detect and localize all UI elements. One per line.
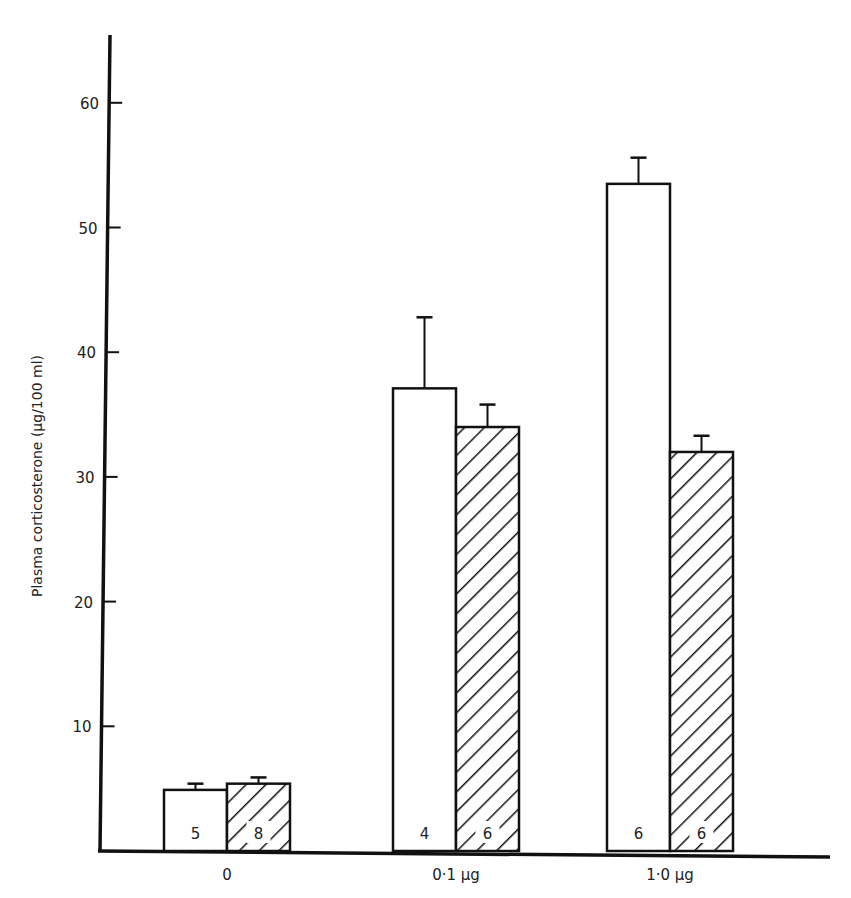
y-axis-line [100,35,110,851]
x-category-label: 0 [222,866,232,884]
bar-open [607,184,670,851]
sample-size-label: 6 [483,825,493,843]
sample-size-label: 4 [420,825,430,843]
bars [164,158,733,851]
bar-hatched [670,452,733,851]
y-axis-label: Plasma corticosterone (µg/100 ml) [29,355,45,597]
sample-size-label: 5 [191,825,201,843]
x-category-label: 1·0 µg [646,866,694,884]
sample-size-label: 8 [254,825,264,843]
y-tick-label: 30 [75,469,94,487]
y-tick-label: 60 [80,95,99,113]
bar-chart: 102030405060 Plasma corticosterone (µg/1… [0,0,851,898]
y-tick-label: 10 [72,718,91,736]
y-tick-label: 40 [77,344,96,362]
x-category-label: 0·1 µg [432,866,480,884]
bar-open [393,388,456,851]
y-tick-label: 20 [74,594,93,612]
sample-size-label: 6 [634,825,644,843]
labels: Plasma corticosterone (µg/100 ml)5846660… [29,355,706,884]
y-tick-label: 50 [79,220,98,238]
sample-size-label: 6 [697,825,707,843]
bar-hatched [456,427,519,851]
